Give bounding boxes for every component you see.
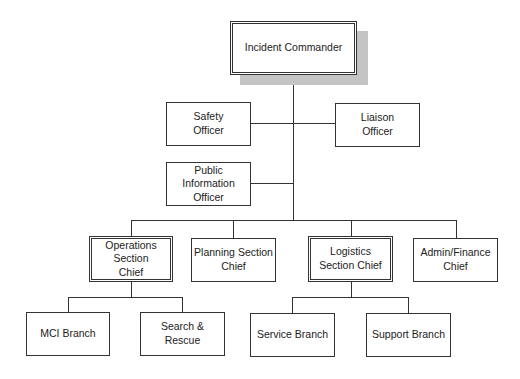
admin-finance-chief-label: Admin/Finance Chief xyxy=(421,246,491,273)
planning-drop xyxy=(233,220,234,238)
public-information-officer-label: Public Information Officer xyxy=(169,164,248,205)
logistics-drop xyxy=(351,220,352,236)
mci-branch-label: MCI Branch xyxy=(40,327,95,341)
safety-officer-label: Safety Officer xyxy=(184,110,234,137)
logistics-section-chief-label: Logistics Section Chief xyxy=(313,245,388,272)
public-information-officer-box[interactable]: Public Information Officer xyxy=(166,162,251,206)
mci-drop xyxy=(68,297,69,312)
logistics-branch-bar xyxy=(292,297,409,298)
admin-drop xyxy=(456,220,457,238)
ops-stem xyxy=(131,281,132,297)
sections-bar xyxy=(131,220,456,221)
logistics-section-chief-box[interactable]: Logistics Section Chief xyxy=(308,236,393,282)
planning-section-chief-box[interactable]: Planning Section Chief xyxy=(191,238,276,282)
service-drop xyxy=(292,297,293,313)
incident-commander-label: Incident Commander xyxy=(245,41,342,55)
liaison-officer-label: Liaison Officer xyxy=(353,111,403,138)
support-drop xyxy=(408,297,409,313)
logistics-stem xyxy=(351,281,352,297)
ops-branch-bar xyxy=(68,297,183,298)
planning-section-chief-label: Planning Section Chief xyxy=(194,246,273,273)
service-branch-label: Service Branch xyxy=(257,328,328,342)
search-rescue-box[interactable]: Search & Rescue xyxy=(140,312,225,356)
sar-drop xyxy=(182,297,183,312)
safety-liaison-connector xyxy=(250,123,336,124)
operations-section-chief-box[interactable]: Operations Section Chief xyxy=(89,236,173,282)
liaison-officer-box[interactable]: Liaison Officer xyxy=(335,103,420,147)
ops-drop xyxy=(131,220,132,236)
pio-connector xyxy=(250,183,293,184)
service-branch-box[interactable]: Service Branch xyxy=(250,313,335,357)
support-branch-label: Support Branch xyxy=(372,328,445,342)
incident-commander-box[interactable]: Incident Commander xyxy=(230,21,357,75)
safety-officer-box[interactable]: Safety Officer xyxy=(166,102,251,146)
mci-branch-box[interactable]: MCI Branch xyxy=(26,312,110,356)
support-branch-box[interactable]: Support Branch xyxy=(366,313,451,357)
trunk-line xyxy=(293,75,294,220)
operations-section-chief-label: Operations Section Chief xyxy=(101,239,161,280)
search-rescue-label: Search & Rescue xyxy=(143,320,222,347)
admin-finance-chief-box[interactable]: Admin/Finance Chief xyxy=(413,238,498,282)
